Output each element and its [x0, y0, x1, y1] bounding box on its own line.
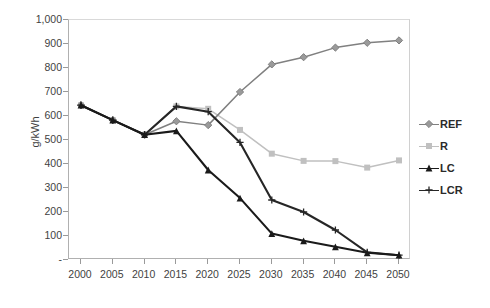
line-chart: g/kWh -1002003004005006007008009001,000 … — [0, 0, 490, 308]
x-tick-mark — [334, 259, 335, 264]
data-point-ref-2040 — [332, 44, 339, 51]
legend-marker-glyph — [425, 142, 433, 150]
y-tick-mark — [63, 91, 68, 92]
y-tick-mark — [63, 259, 68, 260]
y-axis-tick-labels: -1002003004005006007008009001,000 — [12, 0, 62, 308]
x-tick-mark — [398, 259, 399, 264]
y-tick-label: 400 — [12, 158, 62, 169]
data-point-r-2035 — [301, 158, 307, 164]
x-tick-label: 2050 — [375, 268, 421, 280]
y-tick-label: 500 — [12, 134, 62, 145]
chart-legend: REFRLCLCR — [419, 113, 485, 201]
series-line-r — [81, 105, 399, 167]
y-tick-mark — [63, 67, 68, 68]
legend-item-lcr[interactable]: LCR — [419, 179, 485, 201]
y-tick-mark — [63, 163, 68, 164]
data-point-ref-2035 — [300, 54, 307, 61]
legend-marker-glyph — [425, 120, 433, 128]
series-lc — [78, 102, 403, 259]
data-point-r-2025 — [237, 127, 243, 133]
legend-item-label: LC — [439, 162, 455, 174]
legend-marker-glyph — [425, 186, 433, 194]
data-point-r-2050 — [396, 157, 402, 163]
y-tick-mark — [63, 187, 68, 188]
series-r — [78, 102, 402, 170]
data-point-ref-2045 — [364, 39, 371, 46]
y-tick-label: 100 — [12, 230, 62, 241]
x-tick-mark — [207, 259, 208, 264]
y-tick-mark — [63, 235, 68, 236]
legend-item-lc[interactable]: LC — [419, 157, 485, 179]
y-tick-mark — [63, 43, 68, 44]
legend-item-label: R — [439, 140, 448, 152]
legend-marker-glyph — [425, 164, 433, 172]
y-tick-mark — [63, 139, 68, 140]
x-tick-mark — [271, 259, 272, 264]
y-tick-label: 600 — [12, 110, 62, 121]
y-tick-mark — [63, 115, 68, 116]
series-line-ref — [81, 40, 399, 134]
plot-area — [68, 19, 410, 259]
y-tick-label: 300 — [12, 182, 62, 193]
triangle-marker-icon — [419, 162, 439, 174]
y-tick-label: 800 — [12, 62, 62, 73]
x-tick-mark — [239, 259, 240, 264]
data-point-ref-2050 — [395, 37, 402, 44]
y-tick-label: 900 — [12, 38, 62, 49]
legend-item-ref[interactable]: REF — [419, 113, 485, 135]
square-marker-icon — [419, 140, 439, 152]
x-tick-mark — [175, 259, 176, 264]
x-tick-mark — [80, 259, 81, 264]
x-tick-mark — [303, 259, 304, 264]
cross-marker-icon — [419, 184, 439, 196]
y-tick-label: 200 — [12, 206, 62, 217]
series-canvas — [69, 20, 411, 260]
x-tick-mark — [144, 259, 145, 264]
x-tick-mark — [112, 259, 113, 264]
legend-item-r[interactable]: R — [419, 135, 485, 157]
diamond-marker-icon — [419, 118, 439, 130]
y-tick-label: - — [12, 254, 62, 265]
y-tick-label: 1,000 — [12, 14, 62, 25]
series-ref — [77, 37, 402, 139]
y-tick-mark — [63, 19, 68, 20]
data-point-r-2040 — [332, 158, 338, 164]
legend-item-label: REF — [439, 118, 462, 130]
data-point-ref-2015 — [173, 118, 180, 125]
y-tick-mark — [63, 211, 68, 212]
data-point-r-2045 — [364, 165, 370, 171]
legend-item-label: LCR — [439, 184, 463, 196]
data-point-r-2030 — [269, 151, 275, 157]
y-tick-label: 700 — [12, 86, 62, 97]
x-tick-mark — [366, 259, 367, 264]
